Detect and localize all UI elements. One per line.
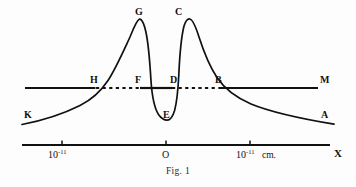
curve-point-label-h: H: [90, 75, 98, 85]
curve-point-label-c: C: [175, 7, 182, 17]
curve-point-label-e: E: [163, 110, 170, 120]
figure-caption: Fig. 1: [0, 166, 356, 176]
curve-point-label-d: D: [170, 75, 177, 85]
x-tick-label-right: 10-11: [236, 150, 254, 160]
x-axis-name-label: X: [334, 148, 342, 159]
potential-curve: [22, 19, 334, 125]
x-tick-right-base: 10: [236, 149, 246, 160]
x-tick-label-left: 10-11: [48, 150, 66, 160]
x-tick-left-exponent: -11: [58, 148, 66, 155]
reference-line-label-m: M: [320, 75, 329, 85]
curve-point-label-g: G: [135, 7, 143, 17]
curve-point-label-f: F: [135, 75, 141, 85]
x-tick-label-origin: O: [162, 150, 169, 160]
curve-point-label-k: K: [24, 110, 32, 120]
curve-point-label-a: A: [321, 110, 328, 120]
figure-container: K H G F E D C B A M 10-11 O 10-11 cm. X …: [0, 0, 356, 187]
curve-point-label-b: B: [215, 75, 222, 85]
x-tick-right-exponent: -11: [246, 148, 254, 155]
x-tick-left-base: 10: [48, 149, 58, 160]
x-axis-unit-label: cm.: [262, 151, 276, 161]
